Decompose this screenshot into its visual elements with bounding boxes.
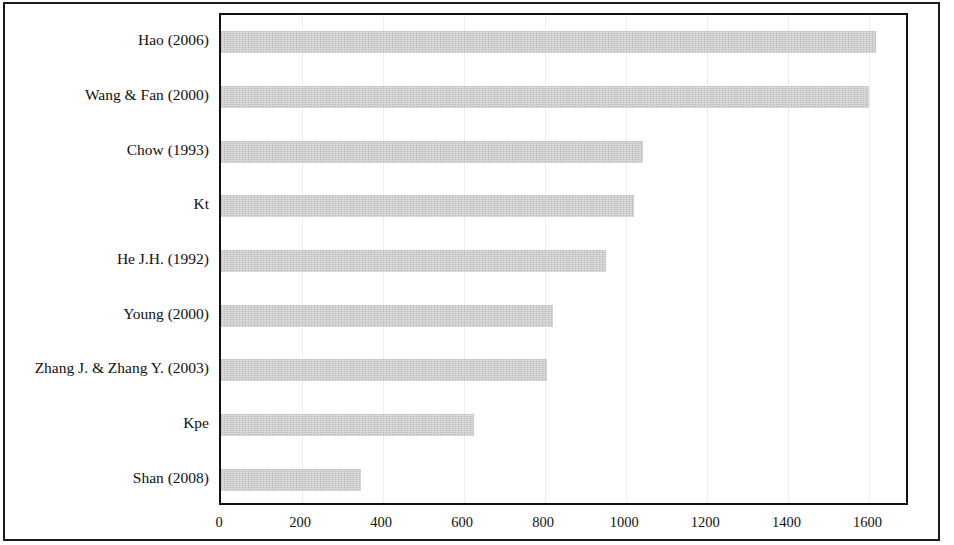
bar [221, 195, 634, 217]
bar [221, 250, 606, 272]
bar [221, 86, 869, 108]
x-tick-label: 1600 [853, 515, 882, 530]
category-label: He J.H. (1992) [9, 251, 219, 267]
x-tick-label: 600 [451, 515, 473, 530]
bar [221, 305, 553, 327]
category-label: Hao (2006) [9, 32, 219, 48]
plot-area [219, 13, 908, 505]
x-axis: 02004006008001000120014001600 [219, 505, 908, 539]
x-tick-label: 1400 [772, 515, 801, 530]
bar [221, 469, 361, 491]
bar [221, 414, 474, 436]
x-tick-label: 200 [289, 515, 311, 530]
category-label: Shan (2008) [9, 470, 219, 486]
x-tick-label: 800 [532, 515, 554, 530]
category-label: Wang & Fan (2000) [9, 87, 219, 103]
x-tick-label: 0 [215, 515, 222, 530]
bar [221, 141, 643, 163]
category-label: Kpe [9, 415, 219, 431]
category-label: Zhang J. & Zhang Y. (2003) [9, 360, 219, 376]
bar [221, 359, 547, 381]
figure-root: Hao (2006)Wang & Fan (2000)Chow (1993)Kt… [0, 0, 954, 545]
x-tick-label: 1000 [610, 515, 639, 530]
category-axis: Hao (2006)Wang & Fan (2000)Chow (1993)Kt… [0, 13, 219, 505]
category-label: Young (2000) [9, 306, 219, 322]
x-tick-label: 1200 [691, 515, 720, 530]
category-label: Chow (1993) [9, 142, 219, 158]
x-tick-label: 400 [370, 515, 392, 530]
gridline-1600 [869, 15, 870, 503]
category-label: Kt [9, 196, 219, 212]
bar [221, 31, 876, 53]
